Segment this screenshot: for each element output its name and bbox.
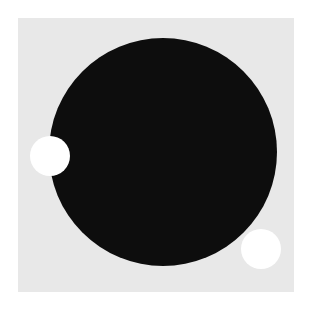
large-black-circle	[49, 38, 277, 266]
small-white-circle-bottom-right	[241, 229, 281, 269]
small-white-circle-left	[30, 136, 70, 176]
